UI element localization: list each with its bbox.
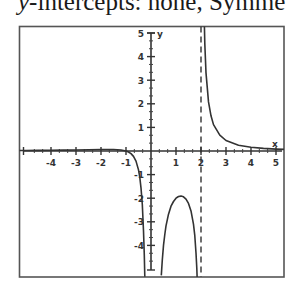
- y-tick-label: 4: [138, 52, 144, 62]
- y-tick-label: 3: [138, 76, 144, 86]
- x-tick-label: -4: [46, 158, 56, 168]
- y-tick-label: -2: [134, 194, 144, 204]
- tick-labels: -4-3-2-11234554321-1-2-3-4yx: [46, 29, 279, 251]
- x-tick-label: -1: [121, 158, 131, 168]
- y-axis-label: y: [157, 29, 163, 39]
- x-tick-label: -2: [96, 158, 106, 168]
- curve-left-branch: [19, 150, 145, 277]
- x-tick-label: 2: [198, 158, 204, 168]
- y-tick-label: -1: [134, 170, 144, 180]
- curve-middle-branch: [161, 196, 197, 282]
- x-tick-label: 3: [223, 158, 229, 168]
- x-tick-label: 4: [248, 158, 254, 168]
- x-tick-label: -3: [71, 158, 81, 168]
- y-tick-label: 1: [138, 123, 144, 133]
- x-axis-label: x: [272, 139, 278, 149]
- curve-right-branch: [203, 0, 285, 149]
- y-tick-label: 2: [138, 99, 144, 109]
- y-tick-label: -4: [134, 241, 144, 251]
- axes: [23, 33, 282, 270]
- y-tick-label: -3: [134, 217, 144, 227]
- function-graph: -4-3-2-11234554321-1-2-3-4yx: [0, 0, 296, 291]
- y-tick-label: 5: [138, 29, 144, 39]
- x-tick-label: 1: [173, 158, 179, 168]
- x-tick-label: 5: [273, 158, 279, 168]
